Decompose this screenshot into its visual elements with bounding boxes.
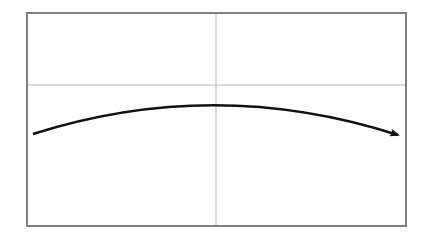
diagram-canvas	[0, 0, 429, 252]
